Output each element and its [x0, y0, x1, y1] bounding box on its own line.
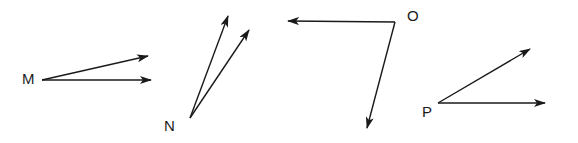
angle-n: N [164, 16, 249, 134]
angle-label-o: O [407, 7, 419, 24]
ray-o-2 [367, 22, 395, 128]
ray-n-1 [190, 16, 228, 118]
ray-o-1 [288, 21, 395, 22]
angles-diagram: M N O P [0, 0, 578, 143]
ray-p-1 [438, 49, 530, 103]
angle-p: P [422, 49, 545, 120]
angle-label-p: P [422, 103, 432, 120]
ray-n-2 [190, 30, 249, 118]
ray-m-1 [42, 56, 148, 80]
angle-o: O [288, 7, 419, 128]
angle-label-n: N [164, 117, 175, 134]
angle-m: M [22, 56, 151, 87]
angle-label-m: M [22, 70, 35, 87]
